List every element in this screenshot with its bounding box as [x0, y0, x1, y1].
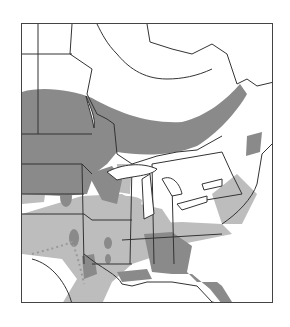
political-borders	[22, 24, 273, 303]
range-map-frame	[21, 23, 273, 303]
range-map	[22, 24, 273, 303]
